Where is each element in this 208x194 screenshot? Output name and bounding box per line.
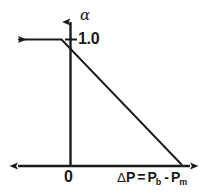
plot-area bbox=[0, 0, 208, 194]
p-m-subscript: m bbox=[179, 177, 187, 187]
figure-canvas: α 1.0 0 ΔP=Pb-Pm bbox=[0, 0, 208, 194]
delta-symbol: Δ bbox=[117, 170, 126, 185]
declining-segment bbox=[62, 40, 183, 166]
y-axis-label-alpha: α bbox=[80, 8, 90, 23]
x-axis-label-delta-p: ΔP=Pb-Pm bbox=[117, 170, 188, 184]
y-tick-label-one: 1.0 bbox=[78, 31, 99, 47]
origin-label-zero: 0 bbox=[64, 169, 73, 185]
equals-symbol: = bbox=[137, 169, 145, 185]
p-total-symbol: P bbox=[126, 169, 135, 185]
minus-symbol: - bbox=[164, 169, 169, 185]
p-b-subscript: b bbox=[156, 177, 162, 187]
